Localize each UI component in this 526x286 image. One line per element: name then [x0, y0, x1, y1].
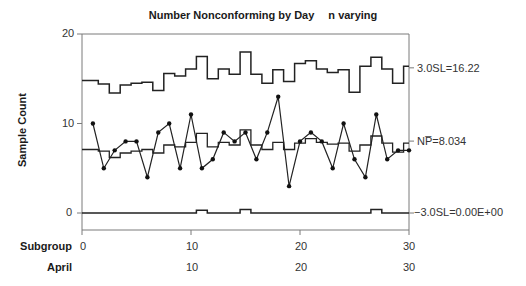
lcl-step-line — [82, 209, 409, 213]
ucl-step-line — [82, 52, 409, 93]
data-point — [352, 157, 356, 161]
y-tick-10: 10 — [62, 117, 74, 129]
data-point — [200, 166, 204, 170]
x-tick-10: 10 — [186, 240, 198, 252]
data-point — [123, 139, 127, 143]
data-point — [331, 166, 335, 170]
april-tick-10: 10 — [186, 261, 198, 273]
data-point — [167, 121, 171, 125]
y-tick-0: 0 — [66, 206, 72, 218]
april-tick-30: 30 — [403, 261, 415, 273]
data-point — [374, 112, 378, 116]
data-point — [341, 121, 345, 125]
y-tick-20: 20 — [62, 27, 74, 39]
data-point — [254, 157, 258, 161]
data-point — [189, 112, 193, 116]
data-point — [298, 139, 302, 143]
data-point — [91, 121, 95, 125]
data-point — [363, 175, 367, 179]
data-point — [145, 175, 149, 179]
data-point — [265, 130, 269, 134]
data-point — [113, 148, 117, 152]
data-point — [156, 130, 160, 134]
data-point — [320, 139, 324, 143]
data-point — [178, 166, 182, 170]
x-tick-20: 20 — [295, 240, 307, 252]
data-point — [276, 94, 280, 98]
ucl-annotation: 3.0SL=16.22 — [417, 62, 480, 74]
april-tick-20: 20 — [295, 261, 307, 273]
data-point — [222, 130, 226, 134]
data-point — [407, 148, 411, 152]
data-point — [211, 157, 215, 161]
x-axis-label-april: April — [12, 261, 72, 273]
data-point — [243, 130, 247, 134]
x-tick-0: 0 — [80, 240, 86, 252]
data-point — [385, 157, 389, 161]
data-point — [396, 148, 400, 152]
data-point — [134, 139, 138, 143]
lcl-annotation: −3.0SL=0.00E+00 — [414, 206, 503, 218]
x-tick-30: 30 — [403, 240, 415, 252]
data-point — [309, 130, 313, 134]
data-point — [232, 139, 236, 143]
data-point — [287, 184, 291, 188]
data-point — [102, 166, 106, 170]
x-axis-label-subgroup: Subgroup — [12, 240, 72, 252]
center-line-annotation: NP̅=8.034 — [417, 135, 466, 147]
